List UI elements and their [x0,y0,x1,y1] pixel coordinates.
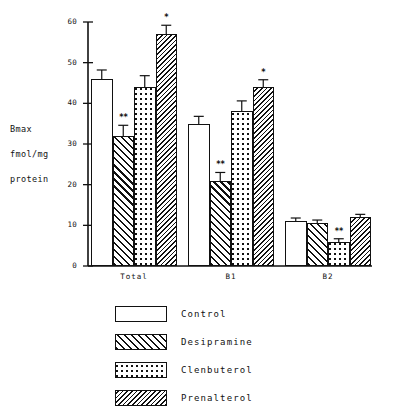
y-axis-tick-50: 50 [55,58,77,67]
y-axis-tick-10: 10 [55,220,77,229]
bar-prenalterol-b1 [253,87,275,266]
y-axis-tick-30: 30 [55,139,77,148]
legend-swatch-clenbuterol [115,362,167,378]
bar-control-b1 [188,124,210,266]
bar-desipramine-b1 [210,181,232,266]
bar-desipramine-b2 [307,223,329,266]
legend-swatch-control [115,306,167,322]
bar-chart-figure: Bmax fmol/mg protein 0102030405060 Total… [0,0,400,419]
significance-prenalterol-total: * [154,13,178,22]
x-axis-label-b2: B2 [275,272,381,281]
bar-control-b2 [285,221,307,266]
significance-desipramine-total: ** [111,113,135,122]
legend-swatch-desipramine [115,334,167,350]
bar-clenbuterol-b2 [328,242,350,266]
bar-control-total [91,79,113,266]
y-axis-tick-60: 60 [55,17,77,26]
legend-label-clenbuterol: Clenbuterol [181,365,253,375]
bar-clenbuterol-b1 [231,111,253,266]
bar-prenalterol-total [156,34,178,266]
x-axis-label-b1: B1 [178,272,284,281]
y-axis-tick-40: 40 [55,98,77,107]
legend-swatch-prenalterol [115,390,167,406]
legend-item-clenbuterol: Clenbuterol [115,362,253,378]
legend-label-desipramine: Desipramine [181,337,253,347]
legend-item-prenalterol: Prenalterol [115,390,253,406]
significance-desipramine-b1: ** [208,160,232,169]
bar-clenbuterol-total [134,87,156,266]
y-axis-tick-20: 20 [55,180,77,189]
bar-desipramine-total [113,136,135,266]
significance-prenalterol-b1: * [251,68,275,77]
bar-prenalterol-b2 [350,217,372,266]
significance-clenbuterol-b2: ** [327,227,351,236]
legend-item-control: Control [115,306,227,322]
y-axis-tick-0: 0 [55,261,77,270]
legend-label-control: Control [181,309,227,319]
legend-item-desipramine: Desipramine [115,334,253,350]
legend-label-prenalterol: Prenalterol [181,393,253,403]
x-axis-label-total: Total [81,272,187,281]
